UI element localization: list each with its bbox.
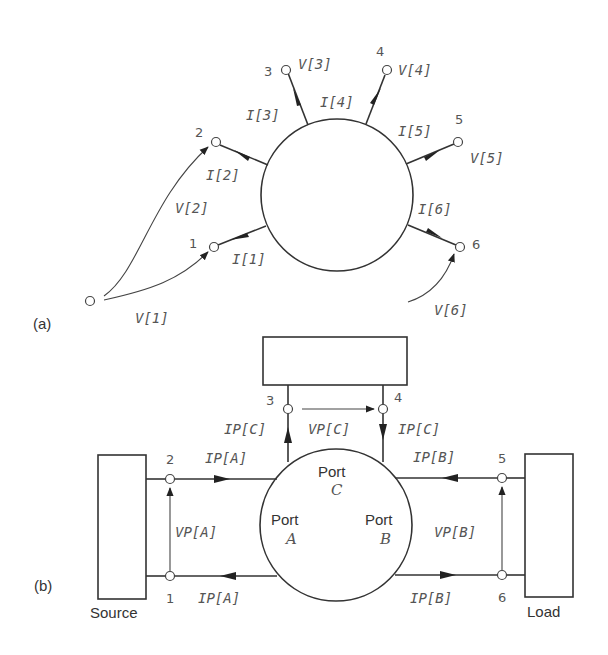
node-2 [166, 475, 175, 484]
port-c-letter: C [331, 481, 343, 499]
voltage-arrow-v6 [408, 254, 454, 302]
vpc-label: VP[C] [308, 421, 350, 437]
terminal-6: 6 I[6] [408, 201, 480, 252]
voltage-label: V[3] [298, 56, 332, 72]
figure-b: Source Load [34, 337, 573, 621]
voltage-arrow-v2 [104, 147, 208, 296]
terminal-4: 4 V[4] I[4] [320, 44, 432, 124]
two-port-network-diagram: 3 V[3] I[3] 4 V[4] I[4] 2 I[2] V[2] [0, 0, 608, 655]
voltage-label: V[1] [135, 310, 169, 326]
node-label: 5 [498, 451, 506, 466]
port-a-word: Port [271, 511, 299, 528]
terminal-5: 5 I[5] V[5] [398, 112, 504, 166]
node-circle [383, 66, 392, 75]
ipb-bottom-label: IP[B] [410, 590, 452, 606]
ipa-bottom-label: IP[A] [198, 590, 240, 606]
port-b-letter: B [379, 530, 391, 548]
current-label: I[1] [232, 251, 266, 267]
node-label: 3 [266, 393, 274, 408]
node-circle [454, 138, 463, 147]
node-3 [284, 405, 293, 414]
node-label: 6 [498, 590, 506, 605]
node-circle [212, 138, 221, 147]
node-label: 1 [189, 236, 197, 251]
node-6 [498, 571, 507, 580]
node-label: 1 [166, 591, 174, 606]
load-label: Load [527, 603, 560, 620]
vpb-label: VP[B] [434, 524, 476, 540]
port-c-network-box [263, 337, 407, 385]
terminal-3: 3 V[3] I[3] [246, 56, 332, 125]
current-label: I[2] [206, 167, 240, 183]
node-1 [166, 572, 175, 581]
voltage-label: V[5] [470, 150, 504, 166]
panel-label-a: (a) [33, 315, 51, 332]
node-circle [282, 66, 291, 75]
port-a-letter: A [284, 530, 297, 548]
node-5 [498, 474, 507, 483]
voltage-label: V[2] [175, 200, 209, 216]
voltage-label: V[6] [434, 302, 468, 318]
current-label: I[3] [246, 107, 280, 123]
node-label: 4 [376, 44, 384, 59]
current-label: I[6] [418, 201, 452, 217]
terminal-2: 2 I[2] V[2] [175, 125, 268, 216]
ipc-left-label: IP[C] [224, 421, 266, 437]
node-label: 2 [195, 125, 203, 140]
voltage-label: V[4] [398, 62, 432, 78]
source-label: Source [90, 604, 138, 621]
current-label: I[5] [398, 123, 432, 139]
ipb-top-label: IP[B] [413, 449, 455, 465]
load-box [525, 454, 573, 597]
node-label: 5 [455, 112, 463, 127]
ipc-right-label: IP[C] [398, 421, 440, 437]
port-b-word: Port [365, 511, 393, 528]
node-circle [210, 243, 219, 252]
multiport-circle [261, 119, 413, 271]
node-label: 3 [264, 64, 272, 79]
figure-a: 3 V[3] I[3] 4 V[4] I[4] 2 I[2] V[2] [33, 44, 504, 332]
node-4 [379, 405, 388, 414]
node-circle [456, 243, 465, 252]
current-label: I[4] [320, 94, 354, 110]
terminal-1: 1 I[1] [189, 226, 266, 267]
node-label: 2 [166, 452, 174, 467]
ipa-top-label: IP[A] [205, 450, 247, 466]
source-box [98, 455, 146, 599]
panel-label-b: (b) [34, 577, 52, 594]
node-circle [86, 297, 95, 306]
voltage-arrow-v1 [104, 252, 208, 300]
vpa-label: VP[A] [175, 524, 217, 540]
node-label: 4 [394, 390, 402, 405]
node-label: 6 [472, 237, 480, 252]
port-c-word: Port [318, 463, 346, 480]
